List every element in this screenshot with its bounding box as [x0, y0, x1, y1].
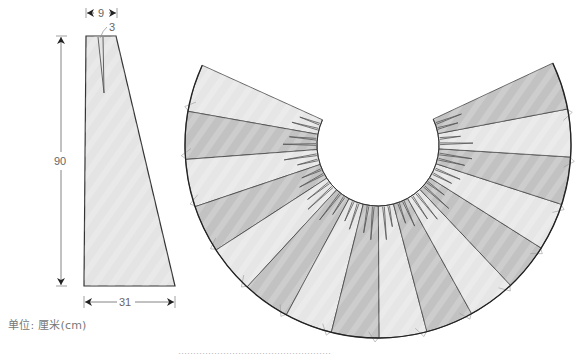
pattern-diagram: 3 9 90 31	[0, 0, 581, 354]
dart-width-label: 3	[109, 21, 115, 33]
front-piece: 3	[84, 21, 175, 286]
dimension-bottom-width: 31	[84, 296, 175, 308]
dimension-top-width: 9	[86, 7, 117, 19]
top-width-label: 9	[98, 7, 104, 19]
dimension-height: 90	[54, 36, 67, 286]
unit-label: 单位: 厘米(cm)	[8, 316, 87, 332]
fabric-texture	[84, 36, 175, 286]
bottom-width-label: 31	[119, 296, 131, 308]
skirt-fan	[181, 63, 574, 342]
height-label: 90	[54, 155, 66, 167]
clipped-caption: ……………………………………………	[178, 347, 331, 354]
